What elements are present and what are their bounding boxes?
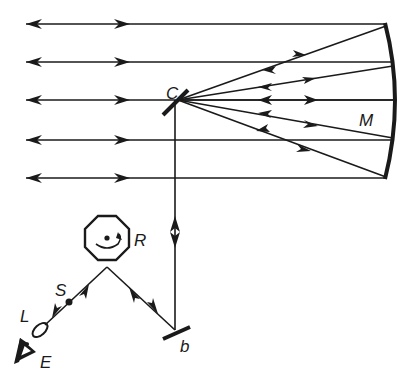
label-M: M (359, 111, 374, 130)
label-L: L (20, 307, 29, 326)
label-C: C (166, 84, 179, 103)
concave-mirror-M (385, 23, 395, 179)
beam-2 (26, 57, 393, 67)
beam-1 (26, 19, 386, 29)
vertical-beam (170, 100, 180, 330)
label-R: R (134, 231, 146, 250)
converging-rays (178, 26, 396, 177)
rotating-mirror-R (85, 216, 129, 260)
label-E: E (40, 353, 52, 372)
beam-4 (26, 135, 393, 145)
rotation-axis-dot (104, 235, 109, 240)
label-S: S (55, 281, 67, 300)
beam-5 (26, 173, 386, 183)
lens-L (30, 320, 50, 339)
eye-E (14, 338, 36, 364)
parallel-beams (26, 19, 396, 183)
source-S-point (66, 299, 73, 306)
optical-diagram: M C b R S L E (0, 0, 413, 382)
label-b: b (180, 337, 189, 356)
beam-R-to-b (107, 267, 175, 330)
